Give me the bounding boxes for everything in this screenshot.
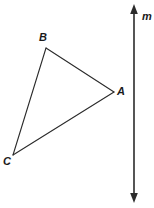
vertex-label-B: B — [39, 32, 47, 43]
geometry-figure: A B C m — [0, 0, 154, 208]
line-m — [130, 4, 138, 203]
edge-C-B — [13, 48, 46, 155]
vertex-label-C: C — [3, 156, 11, 167]
line-label-m: m — [142, 11, 152, 22]
edge-B-A — [46, 48, 114, 92]
vertex-label-A: A — [117, 86, 125, 97]
arrowhead-up-icon — [130, 4, 138, 14]
triangle-ABC — [13, 48, 114, 155]
figure-canvas — [0, 0, 154, 208]
edge-A-C — [13, 92, 114, 155]
arrowhead-down-icon — [130, 193, 138, 203]
